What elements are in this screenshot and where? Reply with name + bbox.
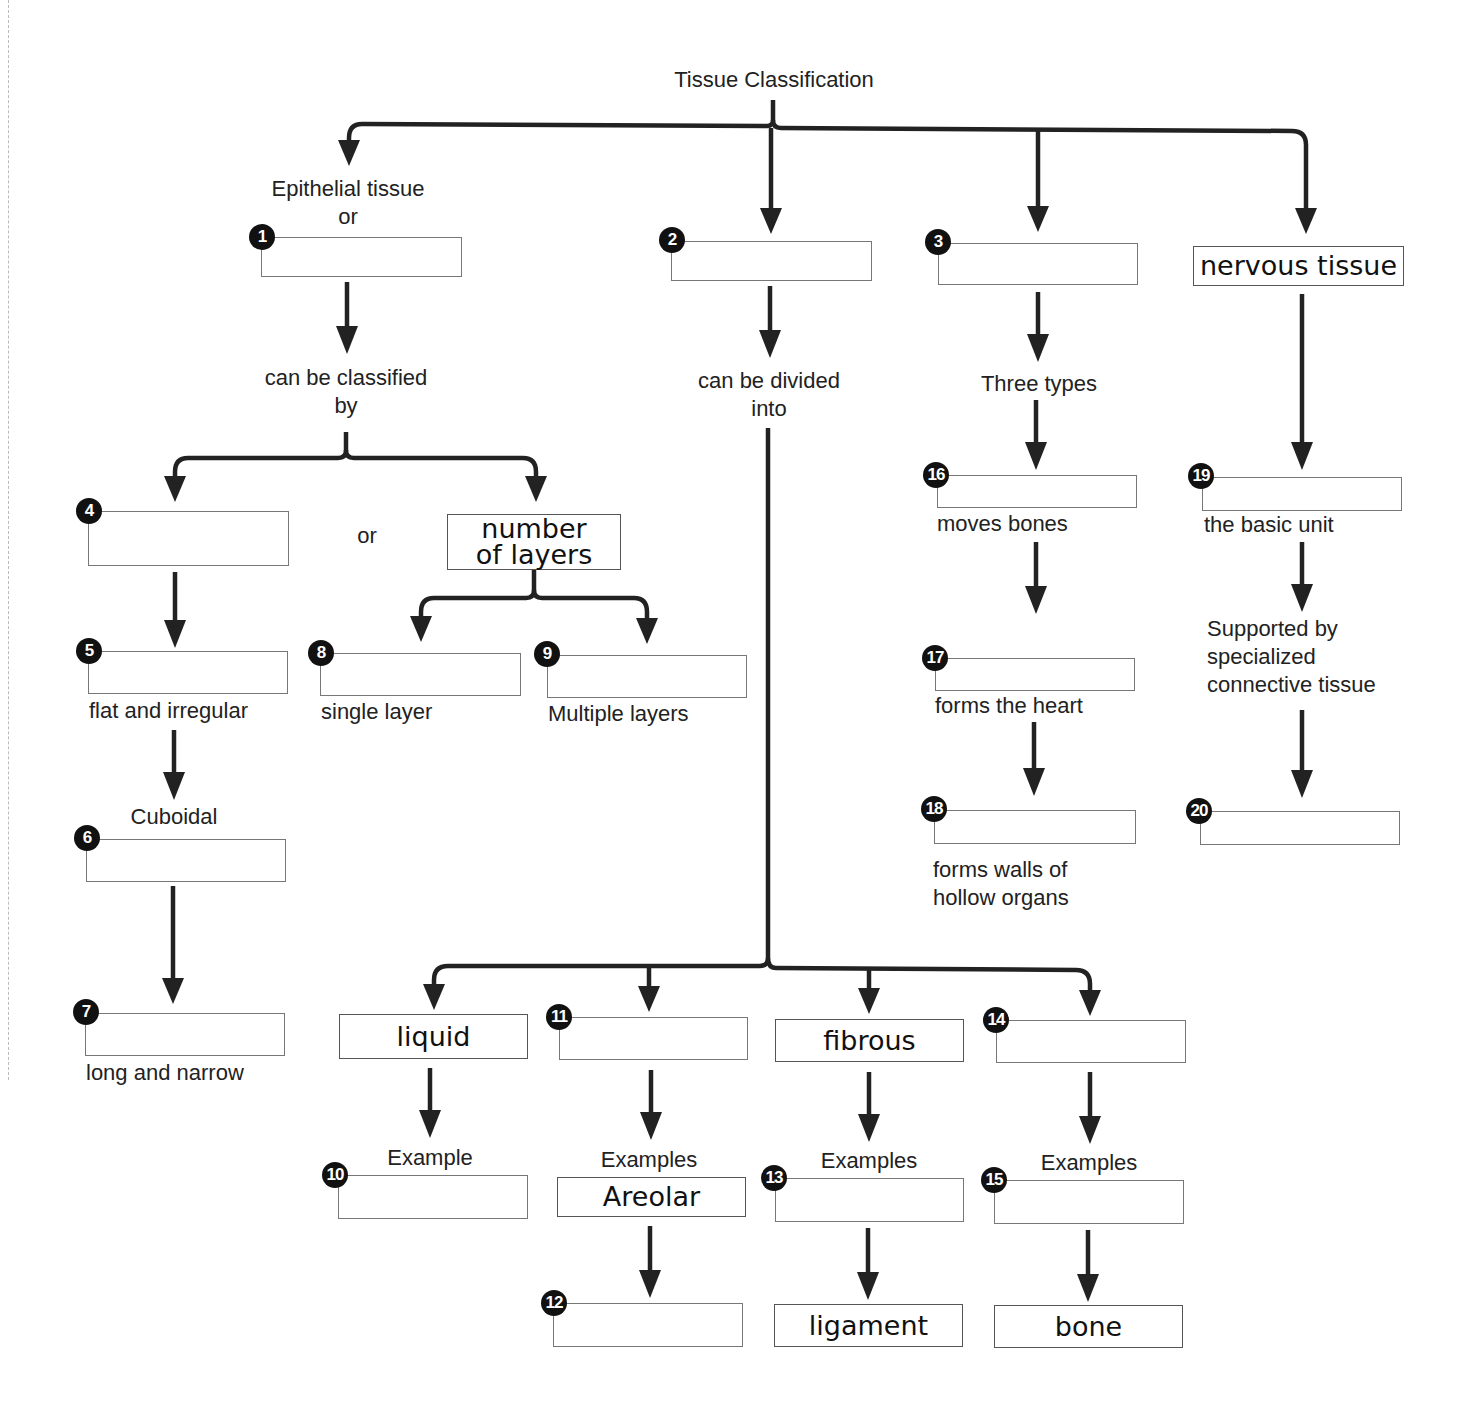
multiple-layers-label: Multiple layers — [548, 700, 689, 728]
number-badge-19: 19 — [1188, 463, 1214, 489]
examples-label-15: Examples — [1009, 1149, 1169, 1177]
examples-label-11: Examples — [569, 1146, 729, 1174]
answer-box-11[interactable] — [559, 1017, 748, 1060]
hollow-organs-label-line1: forms walls of — [933, 856, 1067, 884]
number-badge-9: 9 — [534, 641, 560, 667]
answer-box-15[interactable] — [994, 1180, 1184, 1224]
classified-by-label-line2: by — [226, 392, 466, 420]
answer-box-5[interactable] — [88, 651, 288, 694]
number-badge-14: 14 — [983, 1007, 1009, 1033]
number-badge-13: 13 — [761, 1165, 787, 1191]
answer-box-4[interactable] — [88, 511, 289, 566]
single-layer-label: single layer — [321, 698, 432, 726]
number-badge-6: 6 — [74, 825, 100, 851]
supported-by-label-line2: specialized — [1207, 643, 1316, 671]
answer-box-18[interactable] — [934, 810, 1136, 844]
moves-bones-label: moves bones — [937, 510, 1068, 538]
answer-box-12[interactable] — [553, 1303, 743, 1347]
epithelial-or-label: or — [248, 203, 448, 231]
answer-box-6[interactable] — [86, 839, 286, 882]
three-types-label: Three types — [959, 370, 1119, 398]
areolar-box: Areolar — [557, 1177, 746, 1217]
number-of-layers-box: number of layers — [447, 514, 621, 570]
number-badge-15: 15 — [981, 1167, 1007, 1193]
number-badge-1: 1 — [249, 224, 275, 250]
answer-box-1[interactable] — [261, 237, 462, 277]
answer-box-7[interactable] — [85, 1013, 285, 1056]
number-badge-10: 10 — [322, 1162, 348, 1188]
answer-box-8[interactable] — [320, 653, 521, 696]
number-badge-17: 17 — [922, 645, 948, 671]
epithelial-heading: Epithelial tissue — [248, 175, 448, 203]
hollow-organs-label-line2: hollow organs — [933, 884, 1069, 912]
supported-by-label-line3: connective tissue — [1207, 671, 1376, 699]
answer-box-13[interactable] — [775, 1178, 964, 1222]
diagram-title: Tissue Classification — [640, 66, 908, 94]
basic-unit-label: the basic unit — [1204, 511, 1334, 539]
divided-into-label-line2: into — [659, 395, 879, 423]
cuboidal-label: Cuboidal — [104, 803, 244, 831]
examples-label-13: Examples — [789, 1147, 949, 1175]
ligament-box: ligament — [774, 1304, 963, 1347]
answer-box-9[interactable] — [547, 655, 747, 698]
number-badge-5: 5 — [76, 638, 102, 664]
classified-by-label: can be classified — [226, 364, 466, 392]
number-badge-4: 4 — [76, 498, 102, 524]
number-badge-12: 12 — [541, 1290, 567, 1316]
answer-box-20[interactable] — [1200, 811, 1400, 845]
answer-box-14[interactable] — [996, 1020, 1186, 1063]
nervous-tissue-box: nervous tissue — [1193, 246, 1404, 286]
number-badge-3: 3 — [925, 229, 951, 255]
answer-box-16[interactable] — [937, 475, 1137, 508]
number-badge-18: 18 — [921, 796, 947, 822]
number-badge-11: 11 — [546, 1004, 572, 1030]
bone-box: bone — [994, 1305, 1183, 1348]
supported-by-label-line1: Supported by — [1207, 615, 1338, 643]
or-label: or — [340, 522, 394, 550]
number-badge-20: 20 — [1186, 798, 1212, 824]
number-badge-16: 16 — [923, 462, 949, 488]
liquid-box: liquid — [339, 1014, 528, 1059]
number-badge-2: 2 — [659, 227, 685, 253]
answer-box-17[interactable] — [935, 658, 1135, 691]
forms-heart-label: forms the heart — [935, 692, 1083, 720]
divided-into-label: can be divided — [659, 367, 879, 395]
flat-irregular-label: flat and irregular — [89, 697, 248, 725]
answer-box-10[interactable] — [338, 1175, 528, 1219]
answer-box-2[interactable] — [671, 241, 872, 281]
example-label-liquid: Example — [350, 1144, 510, 1172]
number-badge-7: 7 — [73, 999, 99, 1025]
long-narrow-label: long and narrow — [86, 1059, 244, 1087]
answer-box-19[interactable] — [1202, 477, 1402, 511]
fibrous-box: fibrous — [775, 1019, 964, 1062]
answer-box-3[interactable] — [938, 243, 1138, 285]
number-badge-8: 8 — [308, 640, 334, 666]
